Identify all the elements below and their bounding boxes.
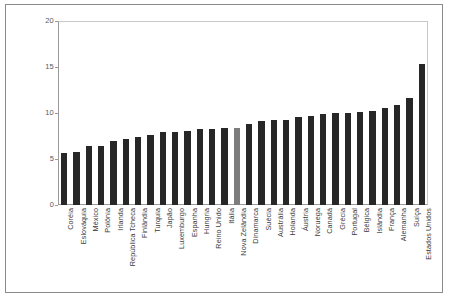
bar (308, 116, 314, 205)
bar (160, 132, 166, 205)
bar (295, 117, 301, 205)
x-axis-tick-label: Noruega (314, 208, 321, 236)
y-axis-tick-label: 0 (32, 201, 54, 209)
y-axis-tick-mark (55, 159, 58, 160)
x-axis-tick-label: Espanha (191, 208, 198, 237)
figure: 05101520 CoréiaEslováquiaMéxicoPolôniaIr… (0, 0, 449, 303)
x-axis-tick-label: Hungria (203, 208, 210, 234)
y-axis-tick-label: 10 (32, 109, 54, 117)
x-axis-tick-label: México (92, 208, 99, 231)
bar (98, 146, 104, 205)
bar (382, 108, 388, 205)
bar (147, 135, 153, 205)
x-axis-tick-label: República Tcheca (129, 208, 136, 266)
x-axis-tick-label: Reino Unido (215, 208, 222, 249)
x-axis-tick-label: Holanda (289, 208, 296, 235)
x-axis-tick-label: Polônia (104, 208, 111, 233)
bar (172, 132, 178, 205)
bar (332, 113, 338, 205)
x-axis-tick-label: Islândia (376, 208, 383, 234)
bar (320, 114, 326, 205)
bar (246, 124, 252, 205)
y-axis-tick-label: 20 (32, 17, 54, 25)
bar (110, 141, 116, 205)
bar (345, 113, 351, 205)
x-axis-tick-label: Portugal (351, 208, 358, 236)
bar (209, 129, 215, 205)
y-axis-tick-mark (55, 205, 58, 206)
bar (73, 152, 79, 205)
bar (221, 128, 227, 205)
x-axis-tick-label: Suécia (265, 208, 272, 231)
x-axis-tick-label: Alemanha (400, 208, 407, 241)
y-axis: 05101520 (30, 0, 54, 303)
x-axis-tick-label: Turquia (154, 208, 161, 233)
bar (184, 131, 190, 205)
bar (258, 121, 264, 205)
x-axis-tick-label: Irlanda (117, 208, 124, 231)
x-axis-tick-label: Luxemburgo (178, 208, 185, 249)
x-axis-tick-label: França (388, 208, 395, 231)
bar-series (58, 21, 428, 205)
x-axis-labels: CoréiaEslováquiaMéxicoPolôniaIrlandaRepú… (58, 206, 428, 301)
x-axis-tick-label: Bélgica (363, 208, 370, 232)
x-axis-tick-label: Estados Unidos (425, 208, 432, 260)
x-axis-tick-label: Eslováquia (80, 208, 87, 244)
bar (419, 64, 425, 205)
x-axis-tick-label: Austrália (277, 208, 284, 237)
bar (271, 120, 277, 205)
bar (283, 120, 289, 205)
x-axis-tick-label: Itália (228, 208, 235, 224)
x-axis-tick-label: Áustria (302, 208, 309, 231)
bar (86, 146, 92, 205)
x-axis-tick-label: Finlândia (141, 208, 148, 238)
bar (61, 153, 67, 205)
bar (406, 98, 412, 205)
bar (234, 128, 240, 205)
y-axis-tick-label: 15 (32, 63, 54, 71)
bar-chart: 05101520 CoréiaEslováquiaMéxicoPolôniaIr… (0, 0, 449, 303)
y-axis-tick-mark (55, 113, 58, 114)
x-axis-tick-label: Japão (166, 208, 173, 228)
bar (357, 112, 363, 205)
y-axis-tick-label: 5 (32, 155, 54, 163)
x-axis-tick-label: Grécia (339, 208, 346, 230)
x-axis-tick-label: Nova Zelândia (240, 208, 247, 256)
y-axis-tick-mark (55, 21, 58, 22)
x-axis-tick-label: Suíça (413, 208, 420, 227)
bar (123, 139, 129, 205)
bar (135, 137, 141, 205)
x-axis-tick-label: Dinamarca (252, 208, 259, 244)
y-axis-tick-mark (55, 67, 58, 68)
x-axis-tick-label: Canadá (326, 208, 333, 234)
bar (369, 111, 375, 205)
bar (197, 129, 203, 205)
x-axis-tick-label: Coréia (67, 208, 74, 230)
bar (394, 105, 400, 205)
